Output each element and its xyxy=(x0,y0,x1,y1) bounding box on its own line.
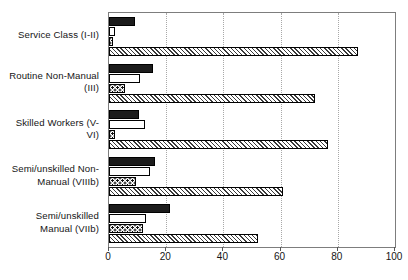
bar xyxy=(109,64,153,73)
bar xyxy=(109,204,170,213)
bar-group xyxy=(109,200,395,247)
x-tick-label: 60 xyxy=(274,251,285,262)
bar xyxy=(109,17,135,26)
bar-group xyxy=(109,153,395,200)
x-tick-label: 80 xyxy=(331,251,342,262)
category-label-line: Routine Non-Manual xyxy=(9,70,99,81)
category-label-text: Skilled Workers (V- VI) xyxy=(16,117,99,142)
category-label-line: Skilled Workers (V- xyxy=(16,117,99,128)
x-tick-label: 40 xyxy=(217,251,228,262)
bar xyxy=(109,234,258,243)
bar xyxy=(109,187,283,196)
bar xyxy=(109,47,358,56)
category-label-line: Manual (VIIIb) xyxy=(37,176,99,187)
bar xyxy=(109,110,139,119)
bar-group xyxy=(109,60,395,107)
category-label-line: Semi/unskilled Non- xyxy=(12,163,99,174)
x-tick-label: 0 xyxy=(105,251,111,262)
category-label-line: VI) xyxy=(86,129,99,140)
bar-chart: Service Class (I-II) Routine Non-Manual … xyxy=(0,0,408,280)
bar-group xyxy=(109,13,395,60)
bar xyxy=(109,120,145,129)
category-label: Semi/unskilled Non- Manual (VIIIb) xyxy=(0,152,104,199)
bar xyxy=(109,94,315,103)
category-label: Semi/unskilled Manual (VIIb) xyxy=(0,199,104,246)
category-label: Skilled Workers (V- VI) xyxy=(0,106,104,153)
x-tick-label: 100 xyxy=(386,251,403,262)
category-label: Service Class (I-II) xyxy=(0,12,104,59)
bar xyxy=(109,224,143,233)
category-label-text: Routine Non-Manual (III) xyxy=(9,70,99,95)
bar xyxy=(109,74,140,83)
bar xyxy=(109,27,115,36)
bar xyxy=(109,84,125,93)
bars-layer xyxy=(109,13,395,247)
category-label-line: (III) xyxy=(84,82,99,93)
x-axis-labels: 020406080100 xyxy=(108,251,394,267)
bar xyxy=(109,214,146,223)
bar-group xyxy=(109,107,395,154)
bar xyxy=(109,177,136,186)
plot-area xyxy=(108,12,396,248)
bar xyxy=(109,157,155,166)
category-label-text: Semi/unskilled Manual (VIIb) xyxy=(36,210,99,235)
category-label: Routine Non-Manual (III) xyxy=(0,59,104,106)
x-tick-label: 20 xyxy=(160,251,171,262)
category-label-text: Semi/unskilled Non- Manual (VIIIb) xyxy=(12,163,99,188)
category-label-line: Manual (VIIb) xyxy=(40,223,99,234)
category-label-line: Semi/unskilled xyxy=(36,210,99,221)
bar xyxy=(109,37,113,46)
category-label-line: Service Class (I-II) xyxy=(18,29,99,41)
bar xyxy=(109,130,115,139)
bar xyxy=(109,140,328,149)
category-axis: Service Class (I-II) Routine Non-Manual … xyxy=(0,12,104,246)
bar xyxy=(109,167,150,176)
